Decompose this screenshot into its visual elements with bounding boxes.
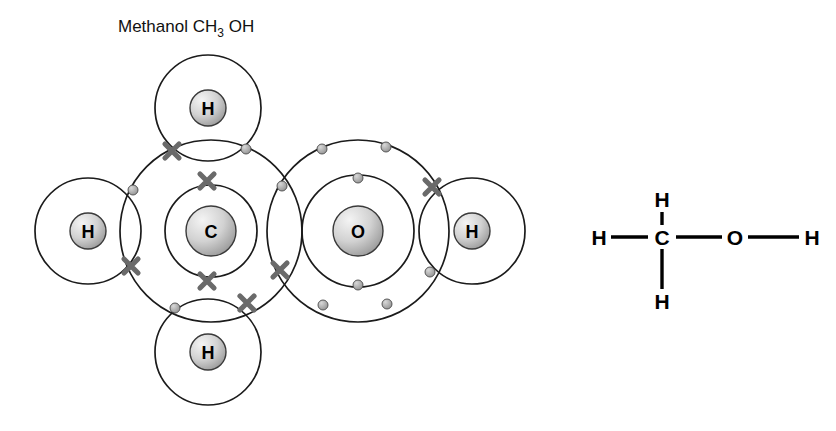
- nucleus-label-hydrogen-right: H: [466, 222, 479, 242]
- atom-label-h-top: H: [654, 188, 669, 211]
- title-name: Methanol: [118, 17, 188, 36]
- atom-hydrogen-left: H: [70, 213, 106, 249]
- figure-svg: Methanol CH3 OH C O: [0, 0, 836, 431]
- dot-and-cross-diagram: C O H H H H: [35, 55, 525, 405]
- atom-label-h-bottom: H: [654, 290, 669, 313]
- electron-dot: [277, 181, 287, 191]
- electron-dot: [128, 185, 138, 195]
- title-formula-main: CH: [193, 17, 218, 36]
- atom-hydrogen-bottom: H: [190, 334, 226, 370]
- electron-dot: [425, 267, 435, 277]
- electron-dot: [241, 144, 251, 154]
- atom-hydrogen-right: H: [454, 213, 490, 249]
- electron-dot: [353, 280, 363, 290]
- structural-formula: H H C O H H: [591, 188, 819, 313]
- atom-label-h-left: H: [591, 226, 606, 249]
- methanol-bonding-figure: Methanol CH3 OH C O: [0, 0, 836, 431]
- atom-hydrogen-top: H: [190, 90, 226, 126]
- nucleus-label-oxygen: O: [351, 222, 365, 242]
- nucleus-label-hydrogen-left: H: [82, 222, 95, 242]
- electron-dot: [317, 144, 327, 154]
- atom-label-h-right: H: [804, 226, 819, 249]
- nucleus-label-hydrogen-top: H: [202, 99, 215, 119]
- nucleus-label-hydrogen-bottom: H: [202, 343, 215, 363]
- title-formula-tail: OH: [229, 17, 255, 36]
- figure-title: Methanol CH3 OH: [118, 17, 254, 40]
- electron-dot: [381, 142, 391, 152]
- svg-text:Methanol CH3 OH: Methanol CH3 OH: [118, 17, 254, 40]
- nucleus-label-carbon: C: [205, 222, 218, 242]
- electron-cross: [240, 296, 254, 310]
- electron-dot: [318, 300, 328, 310]
- electron-dot: [170, 303, 180, 313]
- atom-label-oxygen: O: [727, 226, 743, 249]
- electron-dot: [382, 299, 392, 309]
- atom-oxygen: O: [333, 206, 383, 256]
- electron-dot: [353, 173, 363, 183]
- atom-carbon: C: [186, 206, 236, 256]
- atom-label-carbon: C: [654, 226, 669, 249]
